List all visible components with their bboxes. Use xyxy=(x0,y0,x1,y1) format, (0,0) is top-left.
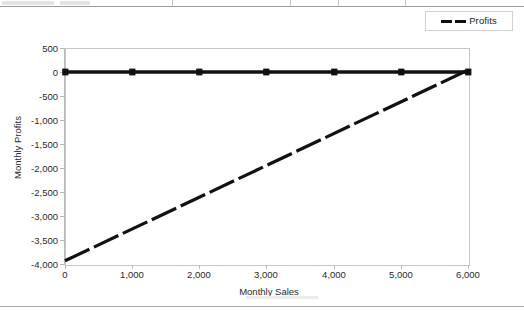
zero-line-marker xyxy=(129,69,135,76)
chart-screenshot: Profits 500 0 -500 -1,000 -1,500 -2,000 … xyxy=(0,0,524,320)
series-zero-line xyxy=(62,69,471,76)
zero-line-marker xyxy=(398,69,404,76)
zero-line-marker xyxy=(62,69,68,76)
zero-line-marker xyxy=(196,69,202,76)
zero-line-marker xyxy=(263,69,269,76)
profits-dashed-line xyxy=(65,70,468,261)
zero-line-marker xyxy=(331,69,337,76)
footer-ghost-text xyxy=(246,296,318,299)
footer-rule xyxy=(0,306,524,307)
series-layer xyxy=(0,0,524,320)
zero-line-marker xyxy=(465,69,471,76)
series-profits xyxy=(65,70,468,261)
